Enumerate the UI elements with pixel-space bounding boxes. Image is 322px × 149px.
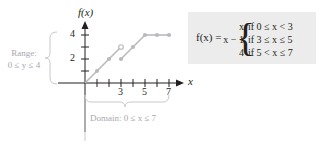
range-annotation-title: Range: (2, 48, 46, 59)
domain-annotation: Domain: 0 ≤ x ≤ 7 (90, 113, 156, 124)
range-brace (45, 32, 57, 84)
figure-root: f(x) x 2 4 3 5 7 Range: 0 ≤ y ≤ 4 Domain… (0, 0, 322, 149)
y-tick-label-2: 2 (70, 52, 75, 63)
formula-case-expression: x (202, 21, 244, 32)
x-tick-label-7: 7 (166, 86, 171, 97)
data-point-closed (167, 33, 171, 37)
data-point-closed (155, 33, 159, 37)
piecewise-formula-box: f(x) = { x if 0 ≤ x < 3 x − 1 if 3 ≤ x ≤… (188, 12, 316, 64)
x-tick-label-5: 5 (142, 86, 147, 97)
range-annotation-value: 0 ≤ y ≤ 4 (2, 60, 46, 71)
data-point-open (119, 45, 124, 50)
data-point-closed (95, 69, 99, 73)
data-point-closed (119, 57, 123, 61)
formula-content: f(x) = { x if 0 ≤ x < 3 x − 1 if 3 ≤ x ≤… (188, 12, 316, 64)
x-axis-label: x (188, 75, 193, 87)
formula-case-expression: x − 1 (202, 34, 244, 45)
formula-case-condition: if 5 < x ≤ 7 (248, 47, 293, 58)
formula-case-expression: 4 (202, 47, 244, 58)
segment-1 (85, 47, 121, 83)
data-point-closed (107, 57, 111, 61)
data-point-closed (131, 45, 135, 49)
x-tick-label-3: 3 (118, 86, 123, 97)
formula-case-condition: if 3 ≤ x ≤ 5 (248, 34, 293, 45)
domain-brace (85, 95, 169, 107)
data-point-closed (143, 33, 147, 37)
y-axis-label: f(x) (78, 6, 93, 18)
y-tick-label-4: 4 (70, 28, 75, 39)
formula-case-condition: if 0 ≤ x < 3 (248, 21, 293, 32)
